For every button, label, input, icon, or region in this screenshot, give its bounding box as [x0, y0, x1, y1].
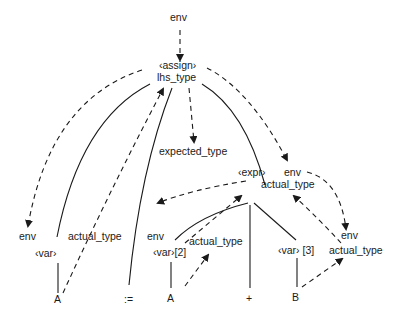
- var2-env-label: env: [147, 231, 164, 242]
- expr-actual-type-label: actual_type: [261, 179, 315, 190]
- root-env-label: env: [170, 12, 187, 23]
- flow-expr-var2env: [158, 181, 246, 203]
- leaf-plus: +: [246, 293, 252, 304]
- leaf-B: B: [292, 292, 299, 303]
- var2-node: ‹var›[2]: [153, 247, 186, 258]
- assign-node: ‹assign›: [159, 60, 196, 71]
- var1-env-label: env: [19, 231, 36, 242]
- edge-expr-var3: [254, 203, 296, 240]
- flow-B-var3type: [302, 259, 342, 287]
- lhs-type-label: lhs_type: [157, 72, 196, 83]
- edge-assign-var1: [57, 84, 150, 237]
- flow-assign-var1env: [28, 70, 142, 226]
- var1-node: ‹var›: [35, 248, 57, 259]
- var3-env-label: env: [341, 230, 358, 241]
- var2-actual-type-label: actual_type: [189, 236, 243, 247]
- var1-actual-type-label: actual_type: [68, 231, 122, 242]
- tree-edges: [0, 0, 400, 324]
- flow-var1-lhs: [63, 89, 163, 293]
- var3-node: ‹var› [3]: [278, 245, 314, 256]
- var3-actual-type-label: actual_type: [329, 245, 383, 256]
- expected-type-label: expected_type: [159, 146, 227, 157]
- leaf-A2: A: [167, 293, 174, 304]
- leaf-assign-op: :=: [124, 294, 133, 305]
- leaf-A1: A: [54, 294, 61, 305]
- expr-env-label: env: [284, 167, 301, 178]
- flow-assign-expected: [189, 88, 194, 142]
- flow-A2-var2type: [185, 255, 208, 286]
- flow-var3-exprtype: [294, 196, 341, 243]
- expr-node: ‹expr›: [238, 167, 265, 178]
